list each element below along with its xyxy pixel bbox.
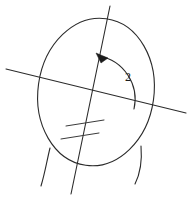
head-oval — [28, 11, 163, 174]
neck-curve-right — [135, 146, 141, 184]
head-angle-diagram: 2 — [0, 0, 188, 197]
arc-arrowhead — [96, 53, 108, 63]
tick-mark-lower — [61, 133, 99, 139]
neck-curve-left — [41, 148, 50, 186]
angle-label: 2 — [125, 70, 131, 84]
figure-canvas: 2 — [0, 0, 188, 197]
